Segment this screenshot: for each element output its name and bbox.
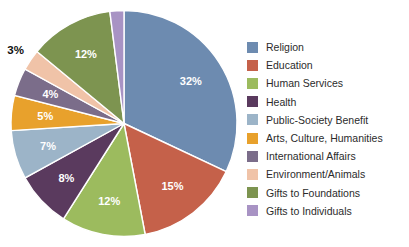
legend-item-label: Human Services <box>266 77 343 89</box>
legend-item[interactable]: Arts, Culture, Humanities <box>247 129 407 147</box>
legend-item-label: Health <box>266 96 296 108</box>
legend-item[interactable]: Human Services <box>247 74 407 92</box>
legend-swatch-icon <box>247 133 258 144</box>
legend-item[interactable]: Education <box>247 56 407 74</box>
legend-item-label: Gifts to Individuals <box>266 205 352 217</box>
chart-legend: ReligionEducationHuman ServicesHealthPub… <box>247 38 407 220</box>
legend-item[interactable]: Health <box>247 93 407 111</box>
pie-slice-label: 15% <box>161 180 183 192</box>
pie-chart-figure: 32%15%12%8%7%5%4%3%12%2% ReligionEducati… <box>0 0 409 247</box>
legend-item[interactable]: Environment/Animals <box>247 165 407 183</box>
legend-item[interactable]: International Affairs <box>247 147 407 165</box>
legend-swatch-icon <box>247 169 258 180</box>
legend-swatch-icon <box>247 187 258 198</box>
pie-slice-label: 12% <box>75 48 97 60</box>
legend-swatch-icon <box>247 205 258 216</box>
legend-item-label: Public-Society Benefit <box>266 114 368 126</box>
legend-swatch-icon <box>247 96 258 107</box>
pie-slice-label: 3% <box>7 44 24 56</box>
pie-plot-area: 32%15%12%8%7%5%4%3%12%2% <box>0 0 248 247</box>
legend-item[interactable]: Public-Society Benefit <box>247 111 407 129</box>
pie-slice-label: 5% <box>37 110 53 122</box>
legend-item[interactable]: Religion <box>247 38 407 56</box>
legend-item-label: Education <box>266 59 313 71</box>
pie-slice-label: 8% <box>58 172 74 184</box>
legend-item-label: International Affairs <box>266 150 356 162</box>
pie-slice-label: 12% <box>98 195 120 207</box>
legend-item-label: Gifts to Foundations <box>266 187 360 199</box>
legend-item[interactable]: Gifts to Individuals <box>247 202 407 220</box>
legend-item-label: Arts, Culture, Humanities <box>266 132 383 144</box>
legend-item-label: Environment/Animals <box>266 168 365 180</box>
pie-slice-label: 4% <box>43 88 59 100</box>
legend-swatch-icon <box>247 78 258 89</box>
legend-item-label: Religion <box>266 41 304 53</box>
legend-swatch-icon <box>247 60 258 71</box>
pie-slice-label: 32% <box>180 75 202 87</box>
pie-slice-label: 7% <box>40 140 56 152</box>
legend-item[interactable]: Gifts to Foundations <box>247 184 407 202</box>
legend-swatch-icon <box>247 151 258 162</box>
legend-swatch-icon <box>247 42 258 53</box>
legend-swatch-icon <box>247 114 258 125</box>
pie-svg <box>0 0 248 247</box>
